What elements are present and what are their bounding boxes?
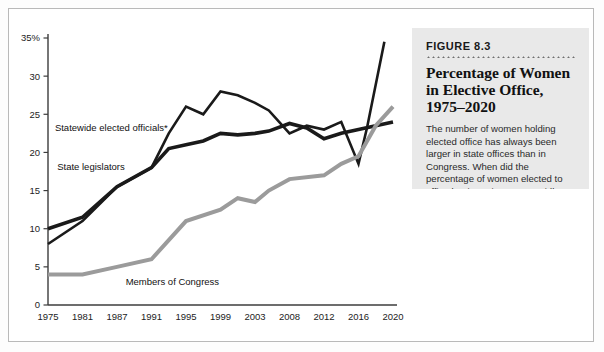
- figure-container: 05101520253035% 197519811987199119951999…: [0, 0, 604, 352]
- x-axis-tick-label: 1995: [175, 311, 196, 322]
- x-axis-tick-label: 1975: [37, 311, 58, 322]
- y-axis-tick-label: 20: [29, 147, 40, 158]
- x-axis-tick-label: 1991: [141, 311, 162, 322]
- series-label-1: State legislators: [57, 161, 125, 172]
- x-axis-tick-label: 1987: [106, 311, 127, 322]
- y-axis-tick-label: 35%: [21, 32, 41, 43]
- figure-number-label: FIGURE 8.3: [426, 40, 576, 52]
- x-axis-tick-label: 2012: [313, 311, 334, 322]
- x-axis-tick-label: 2008: [279, 311, 300, 322]
- y-axis-tick-label: 0: [35, 299, 40, 310]
- series-line-0: [48, 42, 384, 244]
- x-axis-tick-label: 1981: [72, 311, 93, 322]
- figure-title: Percentage of Women in Elective Office, …: [426, 64, 576, 115]
- series-label-2: Members of Congress: [126, 276, 220, 287]
- y-axis-tick-label: 10: [29, 223, 40, 234]
- y-axis-tick-label: 15: [29, 185, 40, 196]
- dotted-divider: [426, 55, 576, 58]
- series-label-0: Statewide elected officials*: [55, 122, 168, 133]
- chart-area: 05101520253035% 197519811987199119951999…: [0, 0, 420, 352]
- y-axis: 05101520253035%: [21, 32, 48, 310]
- x-axis: 1975198119871991199519992003200820122016…: [37, 305, 403, 322]
- y-axis-tick-label: 25: [29, 109, 40, 120]
- line-chart: 05101520253035% 197519811987199119951999…: [0, 0, 420, 352]
- x-axis-tick-label: 1999: [210, 311, 231, 322]
- figure-title-line-2: in Elective Office,: [426, 81, 544, 98]
- figure-description: The number of women holding elected offi…: [426, 123, 576, 189]
- series-lines: [48, 42, 393, 275]
- y-axis-tick-label: 5: [35, 261, 40, 272]
- y-axis-tick-label: 30: [29, 71, 40, 82]
- x-axis-tick-label: 2016: [348, 311, 369, 322]
- figure-title-line-3: 1975–2020: [426, 98, 496, 115]
- series-line-1: [48, 122, 393, 229]
- caption-panel: FIGURE 8.3 Percentage of Women in Electi…: [412, 28, 589, 189]
- x-axis-tick-label: 2003: [244, 311, 265, 322]
- x-axis-tick-label: 2020: [382, 311, 403, 322]
- figure-title-line-1: Percentage of Women: [426, 64, 570, 81]
